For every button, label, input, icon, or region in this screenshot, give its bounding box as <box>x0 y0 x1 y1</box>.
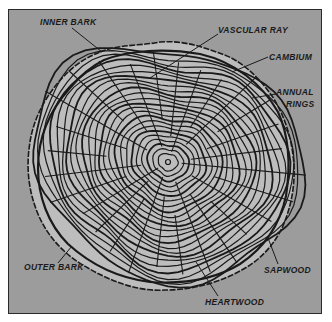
label-annual-rings-line2: RINGS <box>286 99 314 109</box>
label-vascular-ray: VASCULAR RAY <box>218 25 288 35</box>
label-cambium: CAMBIUM <box>269 52 312 62</box>
label-sapwood: SAPWOOD <box>264 265 311 275</box>
label-annual-rings-line1: ANNUAL <box>276 87 314 97</box>
leader-inner-bark <box>72 28 102 52</box>
label-outer-bark: OUTER BARK <box>24 262 84 272</box>
label-inner-bark: INNER BARK <box>40 17 96 27</box>
label-heartwood: HEARTWOOD <box>205 297 264 307</box>
